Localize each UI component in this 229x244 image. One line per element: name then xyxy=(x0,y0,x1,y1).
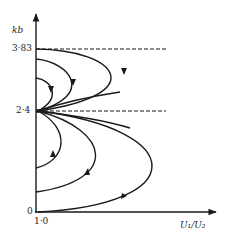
y-axis-label: kb xyxy=(12,26,23,35)
arrow-icon xyxy=(121,68,127,75)
trajectory-diagram xyxy=(0,0,229,244)
curve-lower-inner xyxy=(36,111,61,168)
focal-point xyxy=(36,109,40,113)
y-tick-3-83: 3·83 xyxy=(12,44,32,53)
arrow-icon xyxy=(70,79,76,86)
arrow-icon xyxy=(48,86,54,93)
arrow-icon xyxy=(50,150,56,157)
y-tick-0: 0 xyxy=(27,207,33,216)
x-tick-1-0: 1·0 xyxy=(34,217,48,226)
x-axis-label: U₁/U₂ xyxy=(180,221,205,230)
curve-upper-inner xyxy=(36,78,52,111)
y-tick-2-4: 2·4 xyxy=(16,106,30,115)
dashed-reference-lines xyxy=(36,49,166,111)
curve-lower-middle xyxy=(36,111,96,192)
arrow-icon xyxy=(121,193,127,199)
